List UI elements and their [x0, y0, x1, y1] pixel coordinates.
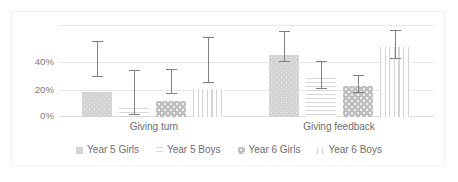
- error-bar-giving-feedback-year-5-girls: [269, 31, 299, 62]
- x-axis-category-label-giving-turn: Giving turn: [96, 120, 212, 134]
- error-bar-cap-lower: [353, 92, 364, 93]
- error-bar-giving-feedback-year-6-boys: [380, 30, 410, 59]
- error-bar-cap-upper: [129, 70, 140, 71]
- error-bar-cap-upper: [92, 41, 103, 42]
- gridline-60: [59, 25, 434, 26]
- error-bar-stem: [134, 70, 135, 115]
- error-bar-giving-turn-year-6-boys: [193, 37, 223, 83]
- chart-container: 40% 20% 0%: [11, 11, 445, 166]
- legend-item-label: Year 5 Girls: [87, 144, 139, 156]
- y-axis-tick-label: 0%: [40, 111, 54, 121]
- error-bar-giving-turn-year-5-girls: [82, 41, 112, 77]
- error-bar-stem: [321, 61, 322, 89]
- error-bar-giving-turn-year-6-girls: [156, 69, 186, 94]
- legend-swatch-icon: [156, 147, 163, 154]
- error-bar-stem: [208, 37, 209, 83]
- y-axis-tick-label: 20%: [35, 85, 54, 95]
- error-bar-cap-upper: [279, 31, 290, 32]
- error-bar-giving-feedback-year-6-girls: [343, 75, 373, 93]
- error-bar-stem: [395, 30, 396, 59]
- error-bar-cap-lower: [279, 61, 290, 62]
- x-axis-category-label-giving-feedback: Giving feedback: [281, 120, 397, 134]
- bar-giving-turn-year-5-girls: [82, 92, 112, 117]
- error-bar-cap-lower: [390, 58, 401, 59]
- legend-item-label: Year 5 Boys: [167, 144, 221, 156]
- error-bar-cap-lower: [316, 88, 327, 89]
- y-axis-tick-label: 40%: [35, 57, 54, 67]
- legend-item-label: Year 6 Boys: [328, 144, 382, 156]
- gridline-20: [59, 90, 434, 91]
- plot-area: [59, 25, 434, 117]
- bar-giving-turn-year-6-boys: [193, 89, 223, 117]
- error-bar-cap-upper: [353, 75, 364, 76]
- legend-item-year-5-girls[interactable]: Year 5 Girls: [76, 144, 139, 156]
- error-bar-stem: [171, 69, 172, 94]
- error-bar-stem: [358, 75, 359, 93]
- legend-swatch-icon: [238, 147, 245, 154]
- y-axis-tick-labels: 40% 20% 0%: [12, 25, 54, 117]
- error-bar-stem: [97, 41, 98, 77]
- error-bar-giving-turn-year-5-boys: [119, 70, 149, 115]
- legend-swatch-icon: [317, 147, 324, 154]
- legend-item-year-6-boys[interactable]: Year 6 Boys: [317, 144, 382, 156]
- error-bar-cap-lower: [203, 82, 214, 83]
- gridline-40: [59, 62, 434, 63]
- x-axis-category-labels: Giving turn Giving feedback: [59, 120, 434, 138]
- bar-giving-turn-year-6-girls: [156, 101, 186, 117]
- bar-giving-feedback-year-5-girls: [269, 55, 299, 117]
- chart-legend: Year 5 Girls Year 5 Boys Year 6 Girls Ye…: [12, 141, 446, 159]
- error-bar-cap-upper: [203, 37, 214, 38]
- error-bar-cap-lower: [129, 114, 140, 115]
- error-bar-cap-lower: [166, 93, 177, 94]
- error-bar-cap-upper: [390, 30, 401, 31]
- error-bar-cap-lower: [92, 76, 103, 77]
- error-bar-giving-feedback-year-5-boys: [306, 61, 336, 89]
- error-bar-cap-upper: [166, 69, 177, 70]
- gridline-0: [59, 116, 434, 117]
- legend-item-year-6-girls[interactable]: Year 6 Girls: [238, 144, 301, 156]
- legend-swatch-icon: [76, 147, 83, 154]
- legend-item-label: Year 6 Girls: [249, 144, 301, 156]
- legend-item-year-5-boys[interactable]: Year 5 Boys: [156, 144, 221, 156]
- error-bar-stem: [284, 31, 285, 62]
- error-bar-cap-upper: [316, 61, 327, 62]
